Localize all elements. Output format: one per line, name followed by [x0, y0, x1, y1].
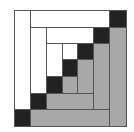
quilt-patch-dark: [14, 109, 31, 127]
quilt-patch-light: [30, 27, 47, 94]
quilt-patch-light: [62, 43, 78, 60]
log-cabin-quilt-block: [14, 10, 126, 126]
quilt-patch-medium: [62, 76, 78, 94]
quilt-patch-light: [46, 43, 63, 77]
quilt-patch-light: [14, 10, 31, 110]
quilt-patch-medium: [30, 109, 110, 127]
quilt-patch-dark: [109, 10, 127, 28]
quilt-patch-medium: [77, 59, 94, 94]
quilt-patch-light: [46, 27, 94, 44]
quilt-patch-dark: [62, 59, 78, 77]
quilt-patch-dark: [46, 76, 63, 94]
quilt-patch-dark: [77, 43, 94, 60]
quilt-patch-medium: [109, 27, 127, 127]
quilt-patch-dark: [93, 27, 110, 44]
quilt-patch-dark: [30, 93, 47, 110]
quilt-patch-light: [30, 10, 110, 28]
quilt-patch-medium: [93, 43, 110, 110]
quilt-patch-medium: [46, 93, 94, 110]
